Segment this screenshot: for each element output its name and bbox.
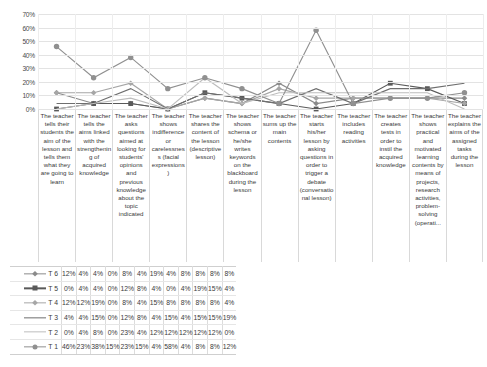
table-cell-value: 15% [193,310,208,325]
legend-swatch [24,298,46,307]
table-cell-value: 8% [178,296,193,311]
table-cell-value: 12% [149,325,164,340]
legend-label: T 2 [48,329,58,336]
table-cell-value: 4% [222,296,236,311]
table-cell-value: 58% [164,339,179,354]
category-divider [75,14,76,109]
legend-label: T 1 [48,343,58,350]
category-header-label: The teacher starts his/her lesson by ask… [300,112,334,202]
category-header-label: The teacher shows schema or he/she write… [225,112,259,194]
table-cell-value: 12% [222,339,236,354]
table-cell-value: 0% [105,310,120,325]
category-header: The teacher includes reading activities [335,110,372,262]
legend-marker-square [33,286,38,291]
category-divider [335,14,336,109]
data-point [351,101,356,106]
category-divider [38,14,39,109]
table-cell-value: 4% [178,339,193,354]
table-cell-value: 4% [149,281,164,296]
table-cell-value: 4% [76,325,91,340]
table-cell-value: 15% [208,281,223,296]
table-cell-value: 0% [105,325,120,340]
y-axis-tick-label: 20% [22,78,35,85]
table-cell-value: 4% [149,310,164,325]
data-point [276,101,281,106]
table-cell-value: 0% [105,281,120,296]
table-cell-value: 23% [76,339,91,354]
table-cell-value: 12% [164,325,179,340]
table-cell-value: 15% [105,339,120,354]
table-cell-value: 15% [164,310,179,325]
table-cell-value: 0% [62,325,77,340]
table-cell-value: 8% [120,267,135,282]
category-header-label: The teacher creates tests in order to in… [374,112,408,169]
table-cell-value: 8% [120,296,135,311]
legend-label: T 5 [48,285,58,292]
data-table: T 612%4%4%0%8%4%19%4%8%8%8%8%T 50%4%4%0%… [10,266,236,355]
category-header: The teacher creates tests in order to in… [372,110,409,262]
table-cell-value: 4% [135,296,150,311]
table-cell-value: 8% [193,296,208,311]
table-cell-value: 8% [135,310,150,325]
category-header-band: The teacher tells their students the aim… [38,110,483,262]
y-axis: 0%10%20%30%40%50%60%70% [0,14,38,109]
table-cell-value: 8% [208,267,223,282]
category-header: The teacher explains the aims of the ass… [446,110,483,262]
table-cell-value: 23% [120,325,135,340]
y-axis-tick-label: 70% [22,11,35,18]
table-cell-value: 12% [62,296,77,311]
category-header-label: The teacher tells their students the aim… [40,112,74,186]
category-header: The teacher shows indifference or carele… [149,110,186,262]
table-cell-value: 15% [208,310,223,325]
category-header: The teacher tells their students the aim… [38,110,75,262]
table-cell-value: 19% [193,281,208,296]
table-cell-value: 4% [76,281,91,296]
table-cell-value: 0% [62,281,77,296]
table-cell-value: 12% [76,296,91,311]
table-cell-value: 0% [222,325,236,340]
table-cell-value: 19% [222,310,236,325]
category-header-label: The teacher shares the content of the le… [188,112,222,161]
category-divider [372,14,373,109]
table-cell-value: 4% [62,310,77,325]
table-row: T 20%4%8%0%23%4%12%12%12%12%12%0% [10,325,236,340]
table-cell-value: 8% [208,296,223,311]
data-point [54,44,59,49]
category-header-label: The teacher shows indifference or carele… [151,112,185,178]
y-axis-tick-label: 30% [22,65,35,72]
table-cell-value: 8% [208,339,223,354]
category-header: The teacher shows schema or he/she write… [223,110,260,262]
table-cell-value: 46% [62,339,77,354]
table-row: T 412%12%19%0%8%4%15%8%8%8%8%4% [10,296,236,311]
legend-entry: T 2 [10,325,62,340]
category-header: The teacher shows practical and motivate… [409,110,446,262]
category-header: The teacher shares the content of the le… [186,110,223,262]
category-header-label: The teacher sums up the main contents [263,112,297,145]
table-cell-value: 4% [222,281,236,296]
category-divider [446,14,447,109]
legend-entry: T 6 [10,267,62,282]
table-cell-value: 15% [91,310,106,325]
data-point [313,101,319,107]
table-cell-value: 19% [91,296,106,311]
table-row: T 34%4%15%0%12%8%4%15%4%15%15%19% [10,310,236,325]
legend-entry: T 4 [10,296,62,311]
table-cell-value: 4% [178,281,193,296]
table-row: T 612%4%4%0%8%4%19%4%8%8%8%8% [10,267,236,282]
legend-swatch [24,269,46,278]
category-header-label: The teacher includes reading activities [337,112,371,145]
data-point [128,101,133,106]
legend-entry: T 1 [10,339,62,354]
legend-marker-diamond [32,271,38,277]
table-cell-value: 23% [120,339,135,354]
data-point [165,86,170,91]
category-header-label: The teacher asks questions aimed at look… [114,112,148,219]
table-cell-value: 0% [105,267,120,282]
table-cell-value: 4% [91,281,106,296]
table-cell-value: 12% [193,325,208,340]
table-cell-value: 8% [135,281,150,296]
data-point [276,86,282,92]
legend-label: T 3 [48,314,58,321]
chart-figure: 0%10%20%30%40%50%60%70% The teacher tell… [0,0,487,367]
data-point [91,75,96,80]
